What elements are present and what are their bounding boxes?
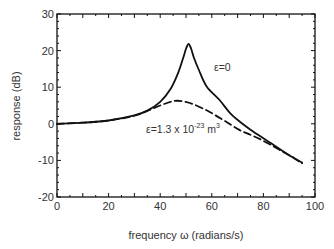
y-tick-label: 20 <box>42 45 54 57</box>
x-axis-label: frequency ω (radians/s) <box>129 229 244 241</box>
x-tick-label: 0 <box>54 200 60 212</box>
annotation-eps-zero: ε=0 <box>214 61 231 73</box>
annotation-eps-nonzero: ε=1.3 x 10-23 m3 <box>146 122 220 135</box>
annotation-eps-unit-exponent: 3 <box>216 122 220 129</box>
annotation-eps-exponent: -23 <box>194 122 204 129</box>
x-tick-label: 40 <box>154 200 166 212</box>
frequency-response-chart: 020406080100-20-100102030 ε=0 ε=1.3 x 10… <box>0 0 334 249</box>
y-tick-label: 10 <box>42 81 54 93</box>
x-tick-label: 80 <box>257 200 269 212</box>
y-tick-label: 0 <box>48 118 54 130</box>
annotation-eps-base: ε=1.3 x 10 <box>146 123 194 135</box>
y-tick-label: -20 <box>38 191 54 203</box>
tick-labels: 020406080100-20-100102030 <box>38 8 324 212</box>
data-series <box>57 44 302 163</box>
y-tick-label: -10 <box>38 154 54 166</box>
x-tick-label: 100 <box>306 200 324 212</box>
plot-frame <box>57 14 315 197</box>
axis-ticks <box>57 14 315 197</box>
series-eps-zero-line <box>57 44 302 163</box>
y-axis-label: response (dB) <box>10 71 22 140</box>
x-tick-label: 60 <box>206 200 218 212</box>
annotation-eps-unit: m <box>204 123 216 135</box>
x-tick-label: 20 <box>102 200 114 212</box>
y-tick-label: 30 <box>42 8 54 20</box>
